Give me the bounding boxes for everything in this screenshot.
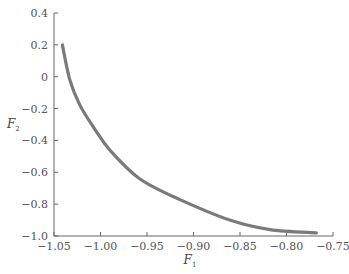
y-tick-label: −0.6 xyxy=(21,166,48,179)
x-tick-label: −0.85 xyxy=(223,240,257,253)
x-axis-ticks: −1.05−1.00−0.95−0.90−0.85−0.80−0.75 xyxy=(37,232,349,253)
y-tick-label: −0.2 xyxy=(21,103,48,116)
x-axis-label: F1 xyxy=(183,253,197,269)
y-tick-label: −0.4 xyxy=(21,134,48,147)
y-tick-label: −0.8 xyxy=(21,198,48,211)
axes xyxy=(54,13,333,236)
y-tick-label: 0.4 xyxy=(31,7,49,20)
y-tick-label: 0 xyxy=(41,71,48,84)
x-tick-label: −0.90 xyxy=(177,240,211,253)
y-axis-ticks: 0.40.20−0.2−0.4−0.6−0.8−1.0 xyxy=(21,7,58,243)
y-tick-label: 0.2 xyxy=(31,39,49,52)
x-tick-label: −0.75 xyxy=(316,240,349,253)
y-axis-label: F2 xyxy=(6,117,20,133)
y-tick-label: −1.0 xyxy=(21,230,48,243)
x-tick-label: −0.80 xyxy=(270,240,304,253)
pareto-front-chart: −1.05−1.00−0.95−0.90−0.85−0.80−0.75 0.40… xyxy=(0,0,349,274)
x-tick-label: −0.95 xyxy=(130,240,164,253)
data-series-curve xyxy=(62,45,316,233)
x-tick-label: −1.00 xyxy=(84,240,118,253)
